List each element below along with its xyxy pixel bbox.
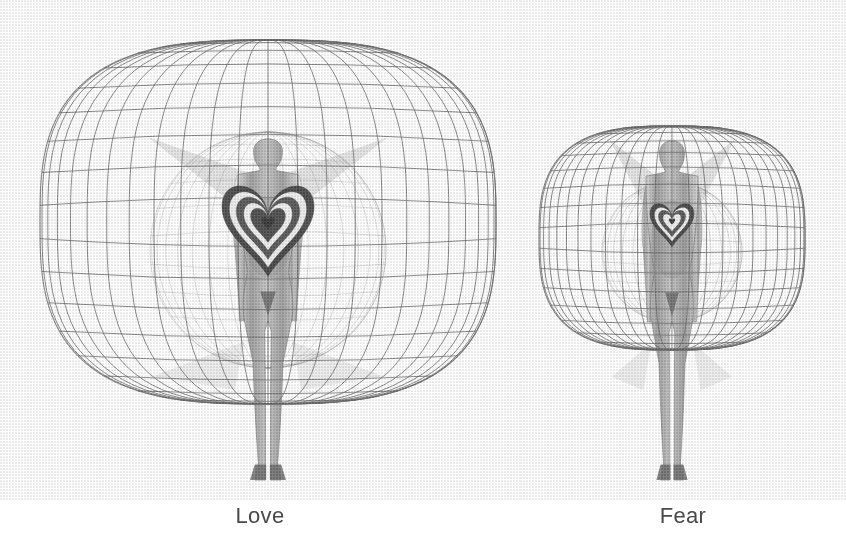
illustration-stage: Love Fear: [0, 0, 846, 560]
fear-illustration: [520, 0, 846, 500]
caption-love: Love: [0, 503, 520, 529]
figure-love: Love: [0, 0, 520, 560]
figure-fear: Fear: [520, 0, 846, 560]
love-illustration: [0, 0, 520, 500]
caption-fear: Fear: [520, 503, 846, 529]
